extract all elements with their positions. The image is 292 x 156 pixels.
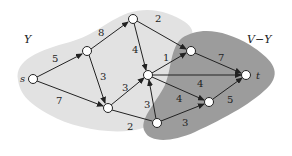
weight-c-d: 3: [122, 82, 128, 93]
region-v-minus-y-label: V−Y: [247, 33, 273, 46]
node-a: [83, 47, 92, 56]
node-t: [242, 71, 251, 80]
weight-g-t: 5: [227, 94, 233, 105]
weight-s-a: 5: [52, 53, 58, 64]
weight-e-t: 7: [218, 52, 224, 63]
weight-b-e: 2: [155, 13, 161, 24]
weight-d-e: 1: [163, 52, 169, 63]
node-c: [104, 104, 113, 113]
node-s-label: s: [20, 73, 25, 84]
weight-d-t: 4: [197, 78, 203, 89]
node-d: [144, 71, 153, 80]
weight-c-f: 2: [127, 121, 133, 132]
weight-a-c: 3: [100, 71, 106, 82]
node-b: [129, 15, 138, 24]
weight-b-d: 4: [132, 44, 138, 55]
weight-f-g: 3: [182, 117, 188, 128]
node-e: [187, 47, 196, 56]
weight-s-c: 7: [56, 95, 62, 106]
weight-a-b: 8: [98, 27, 104, 38]
weight-d-g: 4: [176, 93, 182, 104]
weight-f-d: 3: [144, 99, 150, 110]
node-s: [29, 75, 38, 84]
flow-network-diagram: Y V−Y 5 7 8 3 4 2 3 2 1 4 4 3 7 3 5: [0, 0, 292, 156]
region-y-label: Y: [24, 33, 33, 46]
node-f: [153, 119, 162, 128]
node-g: [205, 98, 214, 107]
